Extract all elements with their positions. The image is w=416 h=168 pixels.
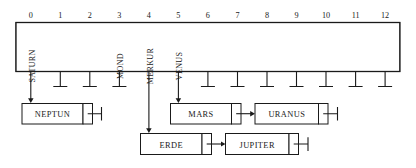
slot-key-mond: MOND [116, 53, 125, 79]
null-stub-12 [378, 72, 392, 87]
chain-node-jupiter[interactable]: JUPITER [226, 134, 309, 155]
chain-node-erde[interactable]: ERDE [141, 134, 223, 155]
index-label-row: 0 1 2 3 4 5 6 7 8 9 10 11 12 [29, 11, 389, 20]
index-label-7: 7 [235, 11, 239, 20]
index-label-10: 10 [322, 11, 330, 20]
null-stub-2 [83, 72, 97, 87]
index-label-12: 12 [381, 11, 389, 20]
index-label-1: 1 [58, 11, 62, 20]
chain-node-neptun[interactable]: NEPTUN [22, 104, 102, 125]
null-stub-10 [319, 72, 333, 87]
null-stub-9 [290, 72, 304, 87]
chain-node-uranus[interactable]: URANUS [255, 104, 338, 125]
index-label-6: 6 [206, 11, 210, 20]
index-label-2: 2 [88, 11, 92, 20]
hash-table-svg: 0 1 2 3 4 5 6 7 8 9 10 11 12 [0, 0, 416, 168]
null-stub-11 [349, 72, 363, 87]
slot-key-saturn: SATURN [28, 49, 37, 82]
index-label-0: 0 [29, 11, 33, 20]
mars-label: MARS [188, 110, 213, 119]
chain-node-mars[interactable]: MARS [171, 104, 252, 125]
index-label-5: 5 [176, 11, 180, 20]
uranus-label: URANUS [268, 110, 305, 119]
neptun-label: NEPTUN [35, 110, 70, 119]
index-label-8: 8 [265, 11, 269, 20]
slot-key-merkur: MERKUR [146, 48, 155, 85]
null-pointer-stubs [53, 72, 392, 87]
index-label-9: 9 [294, 11, 298, 20]
hash-table-diagram: 0 1 2 3 4 5 6 7 8 9 10 11 12 [0, 0, 416, 168]
index-label-11: 11 [352, 11, 360, 20]
null-stub-1 [53, 72, 67, 87]
slot-key-venus: VENUS [175, 52, 184, 80]
index-label-4: 4 [147, 11, 151, 20]
null-stub-8 [260, 72, 274, 87]
table-outline [16, 23, 400, 72]
index-label-3: 3 [117, 11, 121, 20]
hash-table-cells [16, 23, 400, 72]
jupiter-label: JUPITER [240, 141, 275, 150]
null-stub-6 [201, 72, 215, 87]
erde-label: ERDE [159, 141, 182, 150]
null-stub-7 [231, 72, 245, 87]
